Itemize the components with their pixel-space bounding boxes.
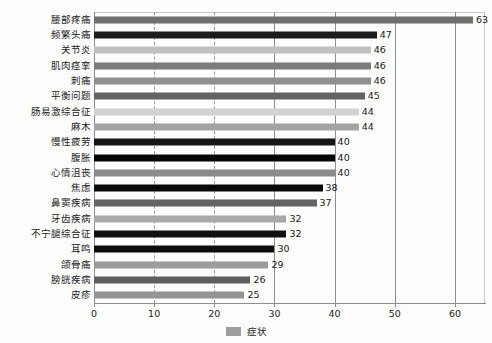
bar-chart: 0102030405060 腰部疼痛频繁头痛关节炎肌肉痉挛刺痛平衡问题肠易激综合… bbox=[0, 0, 492, 343]
x-tick-mark bbox=[154, 303, 155, 307]
bar-value-label: 40 bbox=[335, 137, 350, 147]
bar bbox=[94, 200, 317, 207]
bar-value-label: 38 bbox=[323, 183, 338, 193]
bar bbox=[94, 62, 371, 69]
x-tick-mark bbox=[94, 303, 95, 307]
bar-value-label: 40 bbox=[335, 168, 350, 178]
bar bbox=[94, 16, 473, 23]
bar bbox=[94, 246, 274, 253]
x-tick-label: 50 bbox=[389, 308, 401, 319]
bar-value-label: 44 bbox=[359, 107, 374, 117]
bar-value-label: 32 bbox=[286, 229, 301, 239]
bar-value-label: 29 bbox=[268, 260, 283, 270]
bar-value-label: 37 bbox=[317, 199, 332, 209]
bar-value-label: 46 bbox=[371, 46, 386, 56]
x-tick-label: 20 bbox=[208, 308, 220, 319]
bar-value-label: 46 bbox=[371, 76, 386, 86]
x-axis-line bbox=[94, 303, 486, 304]
bar-value-label: 45 bbox=[365, 91, 380, 101]
bar bbox=[94, 77, 371, 84]
category-label: 牙齿疾病 bbox=[51, 214, 94, 224]
bar bbox=[94, 108, 359, 115]
gridline bbox=[455, 12, 456, 303]
legend-swatch bbox=[226, 327, 241, 336]
bar bbox=[94, 261, 268, 268]
category-label: 肠易激综合征 bbox=[31, 107, 94, 117]
category-label: 颌骨痛 bbox=[61, 260, 94, 270]
bar bbox=[94, 231, 286, 238]
legend-label: 症状 bbox=[247, 324, 267, 338]
x-tick-mark bbox=[274, 303, 275, 307]
x-tick-mark bbox=[214, 303, 215, 307]
bar bbox=[94, 277, 250, 284]
x-tick-mark bbox=[335, 303, 336, 307]
bar-value-label: 30 bbox=[274, 245, 289, 255]
bar bbox=[94, 31, 377, 38]
bar-value-label: 32 bbox=[286, 214, 301, 224]
category-label: 平衡问题 bbox=[51, 91, 94, 101]
bar-value-label: 47 bbox=[377, 30, 392, 40]
bar bbox=[94, 123, 359, 130]
category-label: 慢性疲劳 bbox=[51, 137, 94, 147]
category-label: 频繁头痛 bbox=[51, 30, 94, 40]
x-tick-label: 10 bbox=[148, 308, 160, 319]
bar bbox=[94, 47, 371, 54]
x-tick-label: 40 bbox=[329, 308, 341, 319]
category-label: 鼻窦疾病 bbox=[51, 199, 94, 209]
bar bbox=[94, 292, 244, 299]
category-label: 不宁腿综合征 bbox=[31, 229, 94, 239]
bar bbox=[94, 154, 335, 161]
bar-value-label: 40 bbox=[335, 153, 350, 163]
category-label: 关节炎 bbox=[61, 46, 94, 56]
category-label: 刺痛 bbox=[71, 76, 94, 86]
category-label: 皮疹 bbox=[71, 291, 94, 301]
bar-value-label: 63 bbox=[473, 15, 488, 25]
x-tick-label: 30 bbox=[268, 308, 280, 319]
bar-value-label: 25 bbox=[244, 291, 259, 301]
category-label: 腰部疼痛 bbox=[51, 15, 94, 25]
category-label: 肌肉痉挛 bbox=[51, 61, 94, 71]
category-label: 耳鸣 bbox=[71, 245, 94, 255]
category-label: 膀胱疾病 bbox=[51, 275, 94, 285]
x-tick-mark bbox=[455, 303, 456, 307]
category-label: 腹胀 bbox=[71, 153, 94, 163]
bar-value-label: 46 bbox=[371, 61, 386, 71]
x-tick-label: 0 bbox=[91, 308, 97, 319]
bar bbox=[94, 93, 365, 100]
x-tick-mark bbox=[395, 303, 396, 307]
bar-value-label: 44 bbox=[359, 122, 374, 132]
bar bbox=[94, 169, 335, 176]
category-label: 心情沮丧 bbox=[51, 168, 94, 178]
bar-value-label: 26 bbox=[250, 275, 265, 285]
category-label: 焦虑 bbox=[71, 183, 94, 193]
bar bbox=[94, 215, 286, 222]
chart-legend: 症状 bbox=[0, 324, 492, 338]
gridline bbox=[395, 12, 396, 303]
category-label: 麻木 bbox=[71, 122, 94, 132]
bar bbox=[94, 185, 323, 192]
bar bbox=[94, 139, 335, 146]
x-tick-label: 60 bbox=[449, 308, 461, 319]
